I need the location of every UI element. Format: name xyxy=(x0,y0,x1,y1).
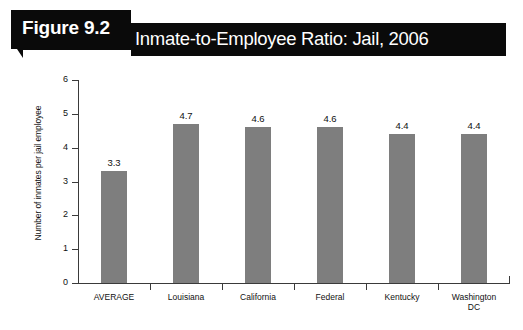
bar-group: 4.4Washington DC xyxy=(438,80,510,283)
figure-header-banner: Figure 9.2 Inmate-to-Employee Ratio: Jai… xyxy=(0,0,523,68)
bar-value-label: 4.7 xyxy=(179,110,192,121)
x-axis-category-label: Kentucky xyxy=(385,292,420,302)
bar-group: 4.6Federal xyxy=(294,80,366,283)
x-axis-category-label: AVERAGE xyxy=(94,292,134,302)
bar-group: 4.4Kentucky xyxy=(366,80,438,283)
y-axis-tick-label: 5 xyxy=(52,108,68,118)
x-axis-tick xyxy=(150,283,151,290)
x-axis-category-label: Louisiana xyxy=(168,292,204,302)
bar xyxy=(245,127,271,283)
y-axis-tick-label: 1 xyxy=(52,243,68,253)
x-axis-tick xyxy=(366,283,367,290)
figure-title: Inmate-to-Employee Ratio: Jail, 2006 xyxy=(135,26,429,52)
figure-number-label: Figure 9.2 xyxy=(22,15,122,41)
x-axis-tick xyxy=(222,283,223,290)
y-axis-tick-label: 4 xyxy=(52,142,68,152)
y-axis-tick-label: 6 xyxy=(52,74,68,84)
bar xyxy=(389,134,415,283)
bar xyxy=(317,127,343,283)
bar-value-label: 4.4 xyxy=(395,120,408,131)
x-axis-category-label: California xyxy=(240,292,276,302)
bar-value-label: 4.6 xyxy=(323,113,336,124)
x-axis-category-label: Federal xyxy=(316,292,345,302)
bar-chart: Number of inmates per jail employee 0123… xyxy=(0,68,523,330)
y-axis-tick xyxy=(72,283,78,284)
x-axis-tick xyxy=(438,283,439,290)
y-axis-tick-label: 3 xyxy=(52,176,68,186)
plot-area: 0123456 3.3AVERAGE4.7Louisiana4.6Califor… xyxy=(78,80,510,283)
y-axis-tick-label: 0 xyxy=(52,277,68,287)
bar-value-label: 4.6 xyxy=(251,113,264,124)
bar-group: 3.3AVERAGE xyxy=(78,80,150,283)
bar xyxy=(101,171,127,283)
bar xyxy=(461,134,487,283)
x-axis-tick xyxy=(294,283,295,290)
bar-value-label: 4.4 xyxy=(467,120,480,131)
y-axis-tick-label: 2 xyxy=(52,209,68,219)
bar-value-label: 3.3 xyxy=(107,157,120,168)
bar-group: 4.7Louisiana xyxy=(150,80,222,283)
y-axis-title: Number of inmates per jail employee xyxy=(33,73,43,273)
bar xyxy=(173,124,199,283)
x-axis-category-label: Washington DC xyxy=(452,292,497,312)
bar-group: 4.6California xyxy=(222,80,294,283)
